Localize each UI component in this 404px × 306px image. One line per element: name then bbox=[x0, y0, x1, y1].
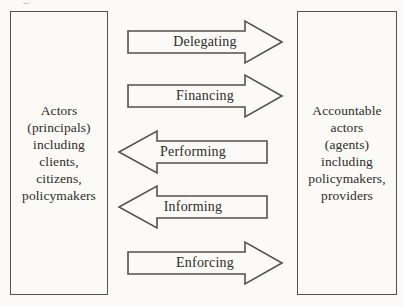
principals-line: citizens, bbox=[22, 170, 96, 187]
principals-line: (principals) bbox=[22, 119, 96, 136]
agents-line: (agents) bbox=[308, 136, 385, 153]
principals-line: including bbox=[22, 136, 96, 153]
arrow-label-delegating: Delegating bbox=[127, 20, 283, 64]
arrow-informing: Informing bbox=[118, 185, 268, 229]
principals-line: Actors bbox=[22, 102, 96, 119]
arrow-delegating: Delegating bbox=[127, 20, 283, 64]
agents-line: actors bbox=[308, 119, 385, 136]
agents-line: providers bbox=[308, 187, 385, 204]
arrow-label-performing: Performing bbox=[118, 130, 268, 174]
accountability-diagram: Actors (principals) including clients, c… bbox=[0, 0, 404, 306]
principals-box: Actors (principals) including clients, c… bbox=[10, 11, 108, 295]
agents-box-text: Accountable actors (agents) including po… bbox=[308, 102, 385, 204]
arrow-performing: Performing bbox=[118, 130, 268, 174]
arrow-label-informing: Informing bbox=[118, 185, 268, 229]
principals-line: policymakers bbox=[22, 187, 96, 204]
agents-line: including bbox=[308, 153, 385, 170]
arrow-label-financing: Financing bbox=[127, 74, 283, 118]
scan-artifact bbox=[23, 0, 29, 4]
agents-line: Accountable bbox=[308, 102, 385, 119]
principals-box-text: Actors (principals) including clients, c… bbox=[22, 102, 96, 204]
agents-line: policymakers, bbox=[308, 170, 385, 187]
arrow-enforcing: Enforcing bbox=[127, 241, 283, 285]
arrow-financing: Financing bbox=[127, 74, 283, 118]
agents-box: Accountable actors (agents) including po… bbox=[297, 11, 397, 295]
arrow-label-enforcing: Enforcing bbox=[127, 241, 283, 285]
principals-line: clients, bbox=[22, 153, 96, 170]
